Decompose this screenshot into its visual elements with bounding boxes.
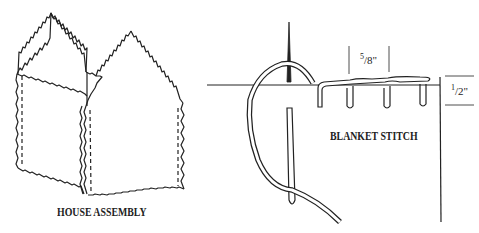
center-seam-dashed (90, 110, 91, 192)
house-assembly-caption: HOUSE ASSEMBLY (57, 205, 147, 220)
needle-top-icon (287, 22, 291, 82)
center-gusset (86, 72, 102, 106)
center-joint-right (84, 106, 87, 194)
stitch-leg-2 (347, 86, 353, 108)
illustration-canvas (0, 0, 479, 233)
stitch-leg-3 (384, 86, 390, 108)
left-eave (17, 74, 87, 96)
stitch-leg-4 (420, 84, 426, 106)
left-wall-bottom (18, 168, 84, 194)
blanket-stitch-drawing (207, 22, 474, 222)
stitch-row (318, 77, 430, 107)
fabric-right-edge (440, 77, 441, 222)
right-wall-outer (181, 103, 184, 189)
right-roof-right-edge (131, 31, 183, 103)
right-roof-left-edge (96, 31, 131, 76)
house-assembly-drawing (16, 13, 184, 195)
center-joint-left (80, 106, 83, 194)
blanket-stitch-caption: BLANKET STITCH (330, 129, 418, 144)
left-wall-outer (16, 74, 18, 168)
stitch-depth-label: 1/2" (451, 83, 468, 97)
left-roof-right-edge (51, 13, 86, 72)
right-wall-bottom (88, 187, 184, 195)
stitch-spacing-label: 5/8" (360, 52, 377, 66)
